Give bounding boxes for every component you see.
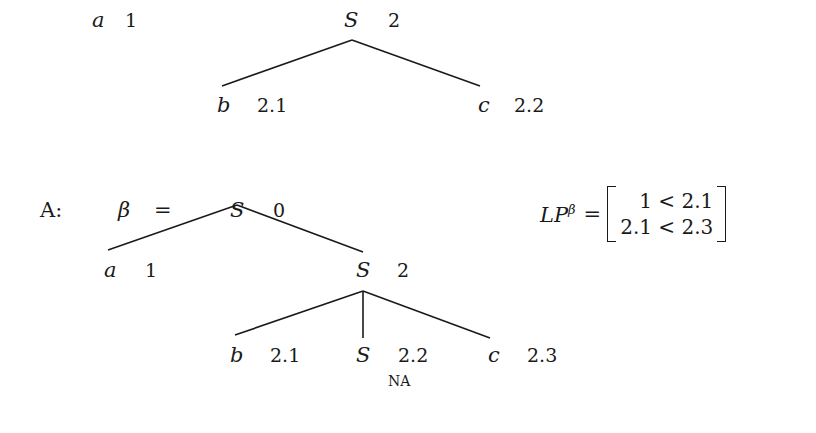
beta-equals: = xyxy=(154,200,172,221)
lp-lhs: LPβ xyxy=(540,202,576,227)
a-child-a-index: 1 xyxy=(145,261,157,280)
section-a-label: A: xyxy=(40,200,62,221)
a-child-a-symbol: a xyxy=(104,260,117,281)
a-gc-c-index: 2.3 xyxy=(527,346,557,365)
matrix-bracket: 1 < 2.1 2.1 < 2.3 xyxy=(607,186,726,242)
a-root-index: 0 xyxy=(273,201,285,220)
edge-s0-s2 xyxy=(237,205,363,252)
a-child-s-symbol: S xyxy=(356,260,370,281)
edge-top-s-c xyxy=(352,40,480,86)
edge-top-s-b xyxy=(222,40,352,86)
top-root-index: 2 xyxy=(388,11,400,30)
lp-superscript: β xyxy=(568,202,576,217)
matrix-row: 2.1 < 2.3 xyxy=(620,214,713,240)
top-child-c-symbol: c xyxy=(478,95,490,116)
lp-symbol: LP xyxy=(540,203,568,227)
right-bracket xyxy=(717,186,726,242)
lp-equals: = xyxy=(584,202,602,226)
a-gc-b-index: 2.1 xyxy=(270,346,300,365)
edge-s2-c xyxy=(363,291,490,338)
left-bracket xyxy=(607,186,616,242)
a-gc-s-index: 2.2 xyxy=(398,346,428,365)
na-annotation: NA xyxy=(388,374,410,388)
top-child-c-index: 2.2 xyxy=(514,96,544,115)
a-gc-s-symbol: S xyxy=(356,345,370,366)
top-child-b-index: 2.1 xyxy=(257,96,287,115)
top-child-b-symbol: b xyxy=(217,95,230,116)
a-root-symbol: S xyxy=(230,200,244,221)
beta-symbol: β xyxy=(118,200,130,221)
top-leaf-a-index: 1 xyxy=(125,11,137,30)
a-gc-c-symbol: c xyxy=(488,345,500,366)
top-root-symbol: S xyxy=(344,10,358,31)
edge-s2-b xyxy=(235,291,363,335)
matrix-rows: 1 < 2.1 2.1 < 2.3 xyxy=(616,186,717,242)
a-gc-b-symbol: b xyxy=(230,345,243,366)
matrix-row: 1 < 2.1 xyxy=(620,188,713,214)
lp-matrix: LPβ = 1 < 2.1 2.1 < 2.3 xyxy=(540,186,726,242)
a-child-s-index: 2 xyxy=(397,261,409,280)
top-leaf-a-symbol: a xyxy=(92,10,105,31)
